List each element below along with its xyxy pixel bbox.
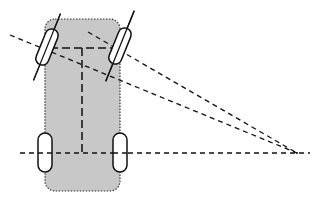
steering-diagram bbox=[0, 0, 328, 202]
car-body bbox=[45, 19, 120, 191]
turning-center bbox=[296, 152, 298, 154]
rear-left-wheel bbox=[38, 133, 52, 172]
rear-right-wheel bbox=[113, 133, 127, 172]
diagram-canvas bbox=[0, 0, 328, 202]
